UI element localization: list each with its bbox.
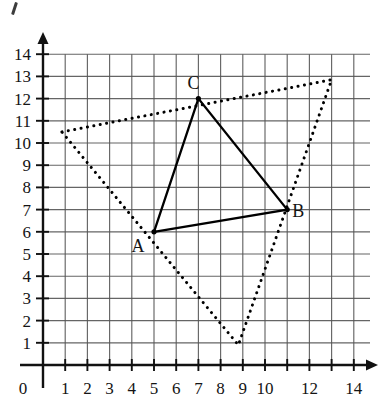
x-axis-tick-label: 14 [345,379,363,398]
y-axis-tick-label: 4 [23,267,32,286]
plot-svg: 12345678910121412345678910111213140ABC [0,0,382,408]
y-axis-tick-label: 7 [23,201,32,220]
x-axis-tick-label: 5 [150,379,159,398]
y-axis-tick-label: 1 [23,334,32,353]
vertex-marker [151,229,156,234]
x-axis-tick-label: 12 [301,379,318,398]
x-axis-tick-label: 10 [257,379,274,398]
y-axis-tick-label: 11 [15,112,31,131]
grid-lines [43,54,370,365]
y-axis-tick-label: 14 [14,45,32,64]
coordinate-grid-figure: 12345678910121412345678910111213140ABC [0,0,382,408]
y-axis-tick-label: 6 [23,223,32,242]
y-axis-tick-label: 5 [23,245,32,264]
y-axis-tick-label: 3 [23,289,32,308]
y-axis-tick-label: 12 [14,90,31,109]
x-axis-tick-label: 8 [216,379,225,398]
x-axis-tick-label: 9 [239,379,248,398]
origin-label: 0 [19,379,28,398]
y-axis-tick-label: 13 [14,67,31,86]
dotted-triangle [62,80,332,345]
y-axis-tick-label: 9 [23,156,32,175]
x-axis-arrowhead [366,360,378,371]
vertex-label-b: B [292,201,304,221]
x-axis-tick-label: 1 [61,379,70,398]
x-axis-tick-label: 2 [83,379,92,398]
vertex-marker [285,207,290,212]
y-axis-tick-label: 10 [14,134,31,153]
x-axis-tick-label: 3 [105,379,114,398]
x-axis-tick-label: 4 [128,379,137,398]
vertex-label-c: C [187,73,199,93]
vertex-label-a: A [132,236,145,256]
y-axis-arrowhead [38,32,49,44]
x-axis-tick-label: 6 [172,379,181,398]
y-axis-tick-label: 2 [23,312,32,331]
y-axis-tick-label: 8 [23,178,32,197]
vertex-marker [196,96,201,101]
x-axis-tick-label: 7 [194,379,203,398]
